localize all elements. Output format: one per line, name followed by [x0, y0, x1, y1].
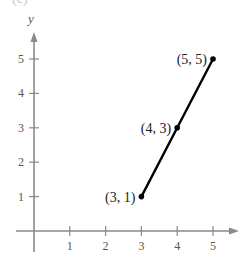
x-tick-label: 2 — [103, 239, 109, 253]
point-label: (5, 5) — [177, 52, 208, 68]
data-point — [174, 125, 180, 131]
y-tick-label: 5 — [18, 52, 24, 66]
x-tick-label: 1 — [67, 239, 73, 253]
data-series: (3, 1)(4, 3)(5, 5) — [105, 52, 216, 206]
ticks: 1234512345 — [18, 52, 216, 253]
axes: y — [16, 11, 239, 252]
x-tick-label: 4 — [174, 239, 180, 253]
point-label: (3, 1) — [105, 190, 136, 206]
data-point — [139, 194, 145, 200]
y-tick-label: 2 — [18, 155, 24, 169]
y-axis-label: y — [26, 11, 34, 26]
x-tick-label: 5 — [210, 239, 216, 253]
y-tick-label: 3 — [18, 121, 24, 135]
chart: (c) y 1234512345 (3, 1)(4, 3)(5, 5) — [0, 0, 239, 264]
point-label: (4, 3) — [141, 121, 172, 137]
x-axis-arrow-icon — [229, 228, 239, 235]
figure-label: (c) — [12, 0, 28, 7]
y-tick-label: 1 — [18, 190, 24, 204]
data-point — [210, 56, 216, 62]
y-tick-label: 4 — [18, 86, 24, 100]
x-tick-label: 3 — [138, 239, 144, 253]
y-axis-arrow-icon — [31, 32, 38, 42]
